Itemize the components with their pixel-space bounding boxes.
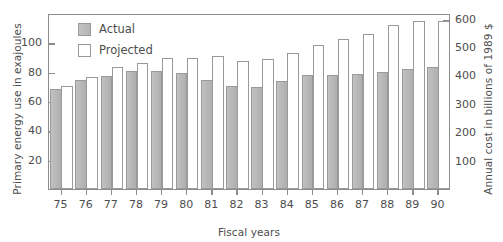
bar-projected [388, 25, 400, 189]
bar-projected [237, 61, 249, 189]
y-axis-right-tick-label: 600 [455, 13, 489, 26]
bar-actual [276, 81, 288, 189]
x-axis-tick [136, 190, 137, 195]
bar-actual [75, 80, 87, 189]
bar-chart-figure: Primary energy use in exajoules Annual c… [0, 0, 503, 242]
bar-projected [187, 58, 199, 189]
x-axis-tick-label: 89 [399, 198, 425, 211]
legend-swatch-projected-icon [78, 44, 91, 57]
legend-swatch-actual-icon [78, 23, 91, 36]
y-axis-right-tick-label: 500 [455, 41, 489, 54]
x-axis-tick-label: 78 [123, 198, 149, 211]
bar-actual [302, 75, 314, 189]
bar-projected [137, 63, 149, 189]
bar-actual [327, 75, 339, 189]
legend-label-projected: Projected [99, 43, 153, 57]
x-axis-tick [387, 190, 388, 195]
x-axis-tick [161, 190, 162, 195]
bar-projected [313, 45, 325, 189]
x-axis-tick-label: 88 [374, 198, 400, 211]
legend-item-projected: Projected [78, 41, 153, 59]
bar-projected [287, 53, 299, 189]
bar-actual [402, 69, 414, 189]
bar-projected [162, 58, 174, 189]
x-axis-tick [337, 190, 338, 195]
bar-actual [377, 72, 389, 189]
bar-actual [126, 71, 138, 189]
x-axis-tick [412, 190, 413, 195]
x-axis-tick [437, 190, 438, 195]
bar-projected [438, 21, 450, 189]
bar-projected [212, 56, 224, 189]
bar-actual [176, 73, 188, 189]
x-axis-tick [262, 190, 263, 195]
x-axis-tick [186, 190, 187, 195]
bar-actual [151, 71, 163, 189]
bar-projected [363, 34, 375, 189]
x-axis-tick [362, 190, 363, 195]
bar-projected [338, 39, 350, 189]
legend-item-actual: Actual [78, 20, 153, 38]
legend-label-actual: Actual [99, 22, 135, 36]
x-axis-tick-label: 84 [274, 198, 300, 211]
y-axis-left-tick-label: 20 [8, 154, 42, 167]
y-axis-left-tick-label: 80 [8, 66, 42, 79]
y-axis-right-tick-label: 400 [455, 69, 489, 82]
x-axis-tick-label: 77 [98, 198, 124, 211]
x-axis-tick-label: 86 [324, 198, 350, 211]
x-axis-tick-label: 90 [424, 198, 450, 211]
x-axis-tick [312, 190, 313, 195]
x-axis-tick-label: 85 [299, 198, 325, 211]
bar-projected [61, 86, 73, 189]
bar-actual [101, 76, 113, 189]
x-axis-tick [86, 190, 87, 195]
y-axis-left-tick [48, 73, 55, 74]
x-axis-tick [111, 190, 112, 195]
y-axis-right-tick-label: 200 [455, 126, 489, 139]
x-axis-tick [61, 190, 62, 195]
x-axis-tick [236, 190, 237, 195]
x-axis-tick-label: 80 [173, 198, 199, 211]
x-axis-tick-label: 79 [148, 198, 174, 211]
bar-actual [251, 87, 263, 189]
y-axis-right-tick-label: 300 [455, 98, 489, 111]
y-axis-right-tick-label: 100 [455, 155, 489, 168]
y-axis-left-tick-label: 100 [8, 36, 42, 49]
y-axis-left-tick [48, 43, 55, 44]
bar-actual [201, 80, 213, 189]
bar-projected [86, 77, 98, 189]
x-axis-title: Fiscal years [48, 226, 450, 238]
x-axis-tick-label: 87 [349, 198, 375, 211]
bar-projected [112, 67, 124, 189]
x-axis-tick [211, 190, 212, 195]
bar-actual [226, 86, 238, 189]
bar-projected [413, 21, 425, 189]
x-axis-tick-label: 75 [48, 198, 74, 211]
y-axis-left-tick-label: 40 [8, 124, 42, 137]
x-axis-tick-label: 76 [73, 198, 99, 211]
bar-actual [427, 67, 439, 189]
x-axis-tick-label: 83 [249, 198, 275, 211]
bar-projected [262, 59, 274, 189]
x-axis-tick-label: 81 [198, 198, 224, 211]
chart-legend: Actual Projected [78, 20, 153, 62]
bar-actual [50, 89, 62, 189]
bar-actual [352, 74, 364, 189]
x-axis-tick-label: 82 [223, 198, 249, 211]
x-axis-tick [287, 190, 288, 195]
y-axis-left-tick-label: 60 [8, 95, 42, 108]
